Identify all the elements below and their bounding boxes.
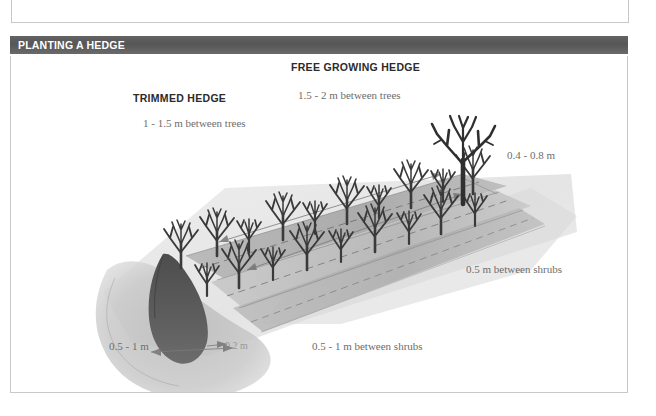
hedge-planting-illustration: TRIMMED HEDGE 1 - 1.5 m between trees FR… <box>11 56 627 392</box>
label-free-growing-hedge: FREE GROWING HEDGE <box>291 61 420 73</box>
label-shrub-spacing-bottom: 0.5 - 1 m between shrubs <box>312 340 423 352</box>
label-free-growing-hedge-spacing: 1.5 - 2 m between trees <box>298 89 401 101</box>
section-title: PLANTING A HEDGE <box>10 39 125 51</box>
page-canvas: PLANTING A HEDGE <box>0 0 656 416</box>
label-trench-width: 0.5 - 1 m <box>109 340 149 352</box>
label-trimmed-hedge-spacing: 1 - 1.5 m between trees <box>143 117 246 129</box>
section-content-box: TRIMMED HEDGE 1 - 1.5 m between trees FR… <box>10 56 628 393</box>
label-trench-depth: 0.2 m <box>225 340 248 351</box>
label-shrub-spacing-right: 0.5 m between shrubs <box>466 263 562 275</box>
label-row-gap: 0.4 - 0.8 m <box>507 149 555 161</box>
previous-content-box <box>11 0 629 23</box>
label-trimmed-hedge: TRIMMED HEDGE <box>133 92 226 104</box>
section-header-bar: PLANTING A HEDGE <box>10 36 628 54</box>
